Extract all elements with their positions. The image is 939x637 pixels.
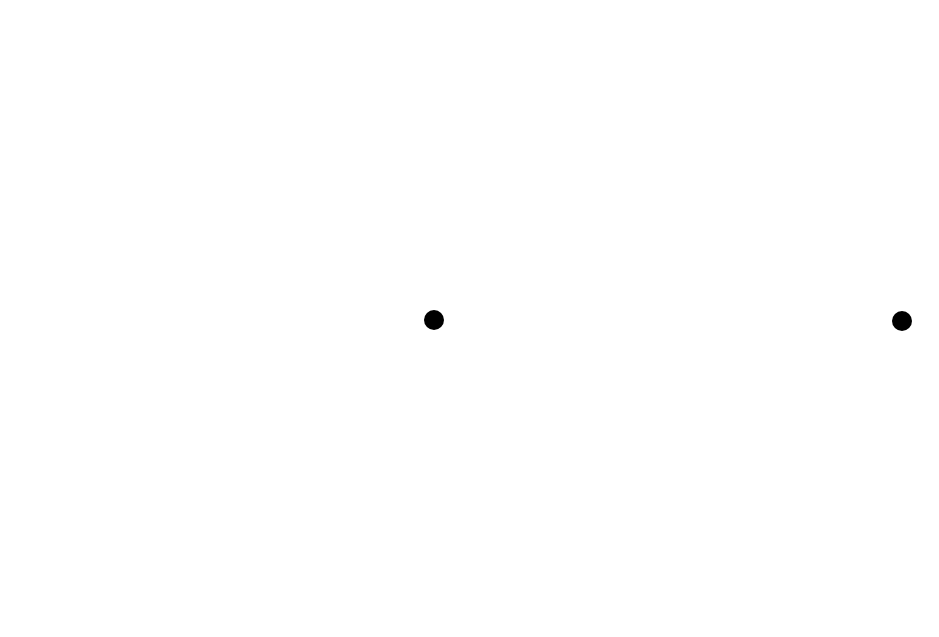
black-dot-left <box>424 310 444 330</box>
black-dot-right <box>892 311 912 331</box>
blank-canvas <box>0 0 939 637</box>
